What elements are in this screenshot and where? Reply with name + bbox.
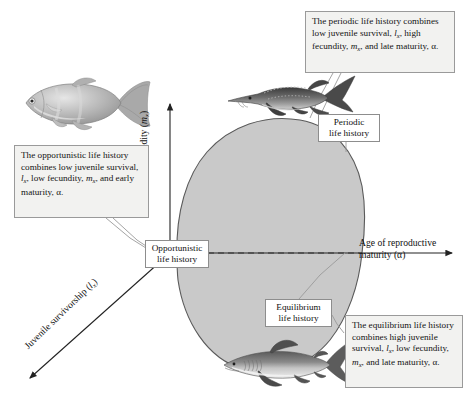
callout-periodic-life-history: The periodic life history combines low j… xyxy=(305,11,455,73)
x-axis-label-line2-post: ) xyxy=(402,249,405,260)
tag-equilibrium-line2: life history xyxy=(278,313,318,323)
callout-periodic-seg3: , and late maturity, xyxy=(360,41,431,51)
x-axis-label-line1: Age of reproductive xyxy=(359,237,436,248)
callout-equilibrium-life-history: The equilibrium life history combines hi… xyxy=(345,315,463,388)
x-axis-label: Age of reproductive maturity (α) xyxy=(359,237,463,260)
tag-opportunistic-life-history: Opportunistic life history xyxy=(145,240,209,268)
life-history-triangle-figure: Age of reproductive maturity (α) Fecundi… xyxy=(0,0,465,395)
leader-line-opportunistic-a xyxy=(106,218,146,248)
callout-equilibrium-seg2: , low fecundity, xyxy=(392,343,449,353)
callout-periodic-seg4: . xyxy=(436,41,438,51)
callout-equilibrium-symbol-m: m xyxy=(352,357,359,367)
x-axis-label-line2-pre: maturity ( xyxy=(359,249,397,260)
tag-periodic-life-history: Periodic life history xyxy=(318,114,380,142)
shark-fish-photo xyxy=(222,339,356,393)
y-axis-label-post: ) xyxy=(138,111,149,114)
callout-opportunistic-life-history: The opportunistic life history combines … xyxy=(14,145,149,218)
tag-equilibrium-line1: Equilibrium xyxy=(276,302,320,312)
callout-opportunistic-seg1: The opportunistic life history combines … xyxy=(21,150,138,172)
callout-equilibrium-seg4: . xyxy=(437,357,439,367)
y-axis-label-subscript: x xyxy=(143,114,150,117)
y-axis-label-symbol: m xyxy=(138,117,149,124)
tag-periodic-line2: life history xyxy=(329,128,369,138)
tag-opportunistic-line2: life history xyxy=(157,254,197,264)
callout-opportunistic-symbol-m: m xyxy=(86,173,93,183)
callout-opportunistic-seg2: , low fecundity, xyxy=(27,173,86,183)
callout-equilibrium-seg3: , and late maturity, xyxy=(362,357,433,367)
tag-equilibrium-life-history: Equilibrium life history xyxy=(265,299,332,327)
callout-opportunistic-seg4: . xyxy=(61,187,63,197)
tag-opportunistic-line1: Opportunistic xyxy=(152,243,203,253)
guppy-fish-photo xyxy=(20,74,152,136)
tag-periodic-line1: Periodic xyxy=(334,117,365,127)
